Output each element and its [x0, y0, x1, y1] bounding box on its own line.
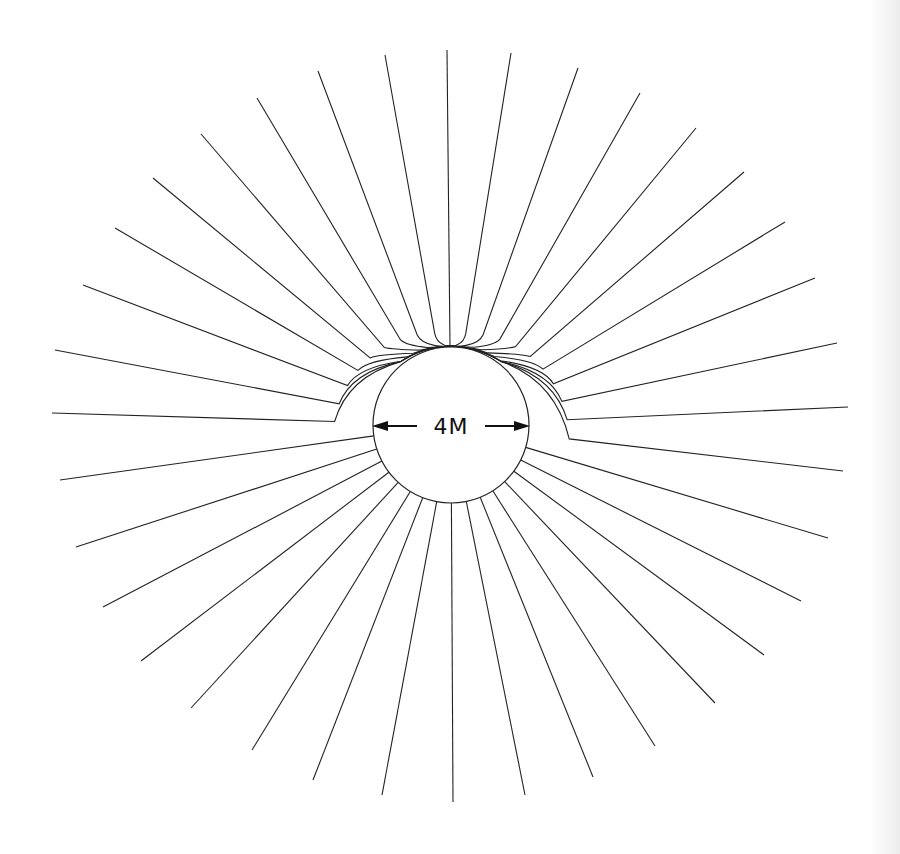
ray-line [450, 222, 785, 369]
ray-line [201, 134, 450, 350]
ray-line [257, 98, 450, 348]
ray-line [153, 178, 450, 358]
ray-line [382, 502, 437, 795]
ray-line [252, 492, 410, 751]
ray-line [451, 503, 453, 802]
ray-line [466, 502, 525, 796]
ray-line [450, 53, 511, 346]
ray-line [60, 436, 374, 480]
ray-line [493, 491, 655, 746]
ray-line [450, 128, 696, 350]
ray-line [103, 461, 382, 607]
ray-line [76, 449, 377, 547]
ray-line [526, 447, 828, 538]
ray-line [505, 482, 715, 703]
ray-line [313, 498, 423, 780]
ray-line [450, 172, 744, 357]
ray-line [385, 55, 450, 346]
ray-line [191, 482, 398, 708]
ray-diagram: 4M [0, 0, 900, 854]
ray-line [480, 497, 593, 777]
diameter-label: 4M [434, 414, 469, 439]
ray-line [450, 93, 640, 347]
ray-line [141, 472, 389, 661]
ray-line [450, 68, 578, 346]
ray-line [447, 50, 450, 346]
